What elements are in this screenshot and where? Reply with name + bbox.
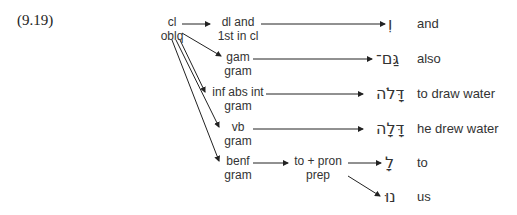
hebrew-leaf: לָ: [385, 153, 394, 172]
hebrew-leaf: דָּלֹה: [376, 84, 404, 103]
node-inf: inf abs int gram: [208, 85, 268, 113]
gloss: to draw water: [417, 86, 495, 101]
gloss: he drew water: [417, 121, 499, 136]
node-dl: dl and 1st in cl: [213, 15, 263, 43]
node-benf: benf gram: [222, 154, 254, 182]
hebrew-leaf: גַּם־: [376, 49, 399, 68]
hebrew-leaf: וְ: [388, 14, 392, 33]
node-gam: gam gram: [222, 50, 254, 78]
gloss: and: [417, 16, 439, 31]
gloss: also: [417, 51, 441, 66]
node-prep: to + pron prep: [290, 154, 346, 182]
example-number: (9.19): [17, 12, 53, 29]
gloss: us: [417, 189, 431, 204]
syntax-diagram: (9.19) cl oblq dl and 1st in cl gam gram…: [0, 0, 517, 215]
hebrew-leaf: נוּ: [385, 187, 396, 206]
hebrew-leaf: דָּלָה: [376, 119, 404, 138]
node-clause-oblique: cl oblq: [155, 15, 189, 43]
gloss: to: [417, 155, 428, 170]
node-vb: vb gram: [222, 120, 254, 148]
